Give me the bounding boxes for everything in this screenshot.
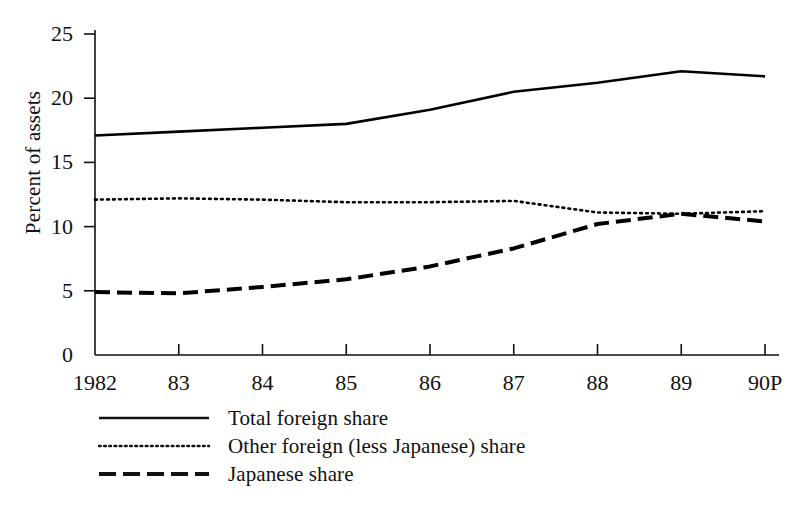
legend-line-sample-dotted [98, 438, 210, 454]
legend-item[interactable]: Total foreign share [98, 404, 698, 432]
legend-item[interactable]: Japanese share [98, 460, 698, 488]
data-series [95, 71, 765, 293]
series-line-0 [95, 71, 765, 135]
chart-legend: Total foreign shareOther foreign (less J… [98, 404, 698, 488]
legend-line-sample-dashed [98, 466, 210, 482]
series-line-2 [95, 214, 765, 294]
legend-item-label: Japanese share [210, 462, 354, 487]
axes [84, 30, 779, 355]
chart-container: Percent of assets 0510152025 19828384858… [0, 0, 804, 507]
legend-item-label: Other foreign (less Japanese) share [210, 434, 525, 459]
legend-item[interactable]: Other foreign (less Japanese) share [98, 432, 698, 460]
legend-line-sample-solid [98, 410, 210, 426]
legend-item-label: Total foreign share [210, 406, 388, 431]
series-line-1 [95, 198, 765, 213]
